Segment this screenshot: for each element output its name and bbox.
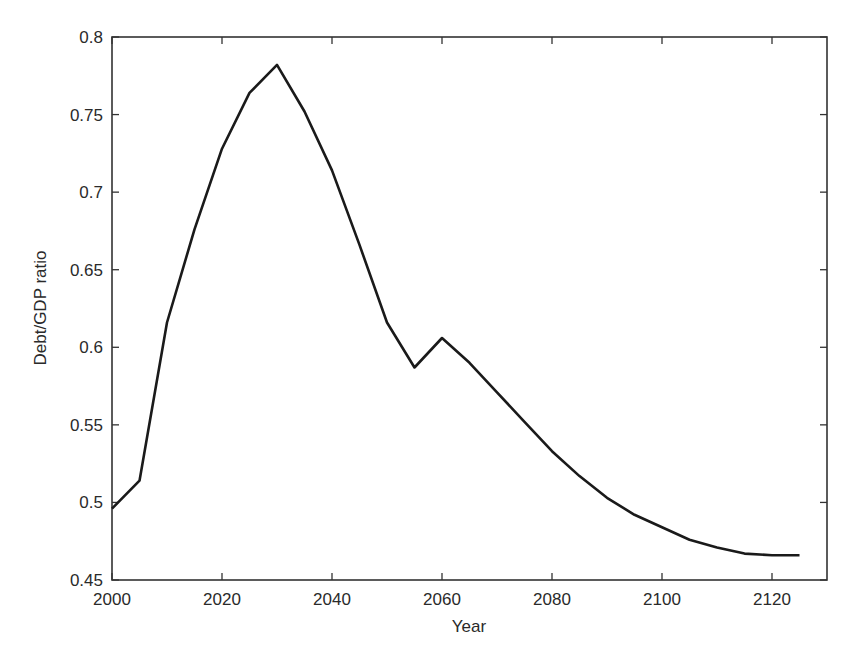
y-tick-label: 0.5 xyxy=(79,493,103,512)
x-tick-label: 2060 xyxy=(423,590,461,609)
y-axis-label: Debt/GDP ratio xyxy=(31,251,50,366)
y-tick-label: 0.8 xyxy=(79,28,103,47)
x-tick-label: 2080 xyxy=(533,590,571,609)
x-tick-label: 2000 xyxy=(93,590,131,609)
plot-frame xyxy=(112,37,827,580)
x-tick-label: 2020 xyxy=(203,590,241,609)
x-axis-ticks: 2000202020402060208021002120 xyxy=(93,37,791,609)
y-tick-label: 0.75 xyxy=(70,106,103,125)
y-tick-label: 0.6 xyxy=(79,338,103,357)
x-axis-label: Year xyxy=(452,617,487,636)
y-axis-ticks: 0.450.50.550.60.650.70.750.8 xyxy=(70,28,827,590)
x-tick-label: 2120 xyxy=(753,590,791,609)
y-tick-label: 0.7 xyxy=(79,183,103,202)
line-chart: 2000202020402060208021002120 0.450.50.55… xyxy=(0,0,852,665)
debt-gdp-line xyxy=(112,65,800,555)
y-tick-label: 0.55 xyxy=(70,416,103,435)
y-tick-label: 0.45 xyxy=(70,571,103,590)
x-tick-label: 2040 xyxy=(313,590,351,609)
x-tick-label: 2100 xyxy=(643,590,681,609)
y-tick-label: 0.65 xyxy=(70,261,103,280)
